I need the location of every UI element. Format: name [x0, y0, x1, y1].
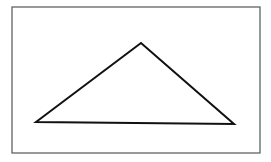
frame-border	[12, 7, 260, 153]
diagram-canvas	[0, 0, 271, 162]
